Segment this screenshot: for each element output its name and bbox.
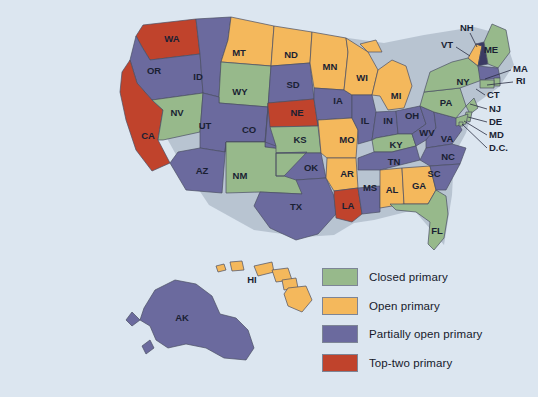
state-label-WV: WV: [419, 127, 435, 138]
state-label-NC: NC: [441, 151, 455, 162]
state-label-AZ: AZ: [196, 165, 209, 176]
legend-swatch-partially_open: [322, 325, 358, 343]
legend-swatch-closed: [322, 268, 358, 286]
callout-label-MA: MA: [513, 63, 528, 74]
state-label-CO: CO: [242, 124, 256, 135]
legend-swatch-open: [322, 297, 358, 315]
state-label-AL: AL: [386, 184, 399, 195]
callout-label-NJ: NJ: [489, 103, 501, 114]
legend-item-open[interactable]: Open primary: [322, 295, 522, 317]
state-label-WY: WY: [232, 86, 248, 97]
state-label-ID: ID: [193, 71, 203, 82]
state-label-TX: TX: [290, 201, 303, 212]
state-label-IN: IN: [383, 115, 393, 126]
state-ND[interactable]: [271, 26, 312, 66]
state-label-ME: ME: [484, 44, 498, 55]
legend-label-partially_open: Partially open primary: [369, 328, 482, 340]
state-label-KS: KS: [293, 134, 306, 145]
state-label-FL: FL: [431, 225, 443, 236]
state-label-NM: NM: [233, 170, 248, 181]
legend-item-closed[interactable]: Closed primary: [322, 266, 522, 288]
callout-label-DE: DE: [489, 116, 502, 127]
state-label-LA: LA: [342, 200, 355, 211]
state-label-ND: ND: [284, 49, 298, 60]
state-label-VA: VA: [441, 133, 454, 144]
state-label-OH: OH: [405, 110, 419, 121]
state-label-TN: TN: [388, 156, 401, 167]
legend-label-closed: Closed primary: [369, 271, 448, 283]
state-label-IL: IL: [361, 115, 370, 126]
state-label-WA: WA: [164, 33, 179, 44]
legend-label-top_two: Top-two primary: [369, 357, 452, 369]
state-label-CA: CA: [141, 130, 155, 141]
state-RI[interactable]: [494, 78, 500, 86]
state-label-AR: AR: [340, 168, 354, 179]
state-HI[interactable]: [216, 261, 312, 312]
state-label-OK: OK: [304, 162, 318, 173]
state-label-WI: WI: [356, 72, 368, 83]
legend-swatch-top_two: [322, 354, 358, 372]
state-label-GA: GA: [412, 180, 426, 191]
callout-label-VT: VT: [441, 39, 453, 50]
callout-label-MD: MD: [489, 129, 504, 140]
state-label-NY: NY: [456, 76, 470, 87]
map-legend: Closed primaryOpen primaryPartially open…: [322, 266, 522, 380]
state-label-IA: IA: [333, 95, 343, 106]
state-label-AK: AK: [175, 312, 189, 323]
state-label-MT: MT: [232, 47, 246, 58]
state-label-MO: MO: [339, 134, 354, 145]
state-label-MN: MN: [323, 61, 338, 72]
state-WY[interactable]: [219, 62, 271, 107]
state-label-UT: UT: [199, 120, 212, 131]
state-CT[interactable]: [480, 80, 494, 88]
state-label-MI: MI: [391, 90, 402, 101]
legend-item-partially_open[interactable]: Partially open primary: [322, 323, 522, 345]
state-label-KY: KY: [389, 139, 403, 150]
state-label-HI: HI: [247, 274, 257, 285]
callout-label-DC: D.C.: [489, 142, 508, 153]
callout-label-RI: RI: [516, 75, 526, 86]
state-label-SD: SD: [286, 79, 299, 90]
state-AK[interactable]: [126, 280, 254, 360]
legend-label-open: Open primary: [369, 300, 440, 312]
state-label-SC: SC: [427, 168, 440, 179]
legend-item-top_two[interactable]: Top-two primary: [322, 352, 522, 374]
state-label-OR: OR: [147, 65, 161, 76]
callout-label-CT: CT: [487, 89, 500, 100]
state-label-PA: PA: [440, 97, 453, 108]
callout-label-NH: NH: [460, 22, 474, 33]
state-label-NE: NE: [290, 107, 303, 118]
state-label-MS: MS: [363, 182, 377, 193]
leader-MD: [464, 121, 487, 135]
state-label-NV: NV: [170, 107, 184, 118]
us-primary-election-types-map: WAORCAIDNVMTWYUTAZCONMNDSDNEKSOKTXMNIAMO…: [0, 0, 538, 397]
